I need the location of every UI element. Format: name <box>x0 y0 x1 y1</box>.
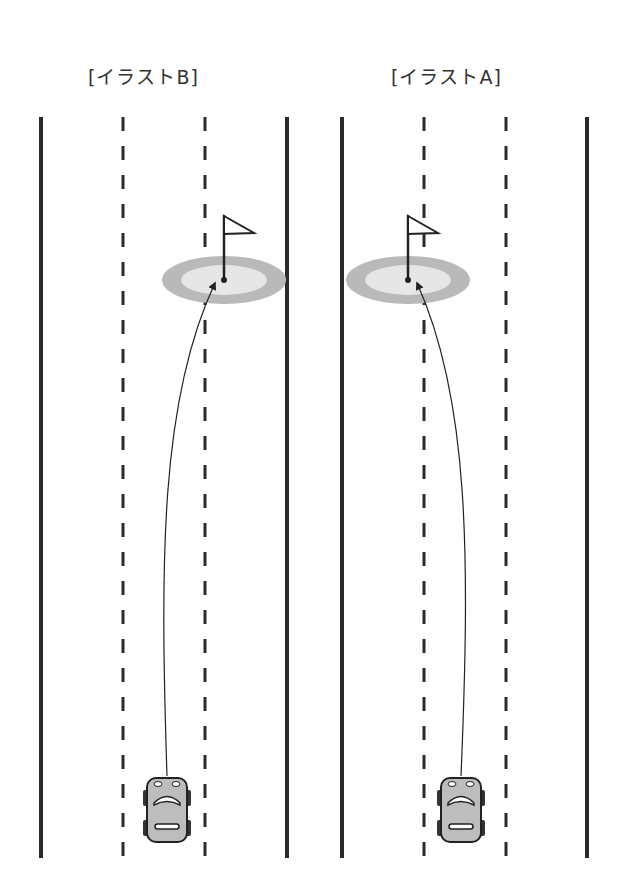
hole-icon <box>405 277 411 283</box>
road-diagram <box>0 0 630 891</box>
flag-icon <box>224 216 254 234</box>
car-icon <box>437 778 485 842</box>
hole-icon <box>221 277 227 283</box>
ball-trajectory-arrow <box>164 283 215 776</box>
flag-icon <box>408 216 438 234</box>
car-icon <box>143 778 191 842</box>
